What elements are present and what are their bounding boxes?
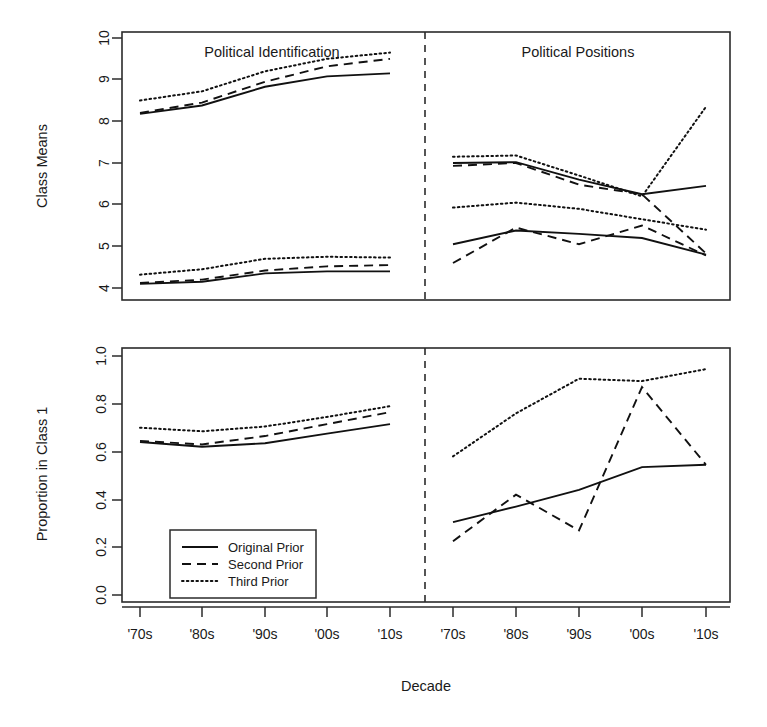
ytick-label-0-4: 0.4 (93, 490, 109, 510)
xtick-label-0-0: '70s (127, 626, 152, 642)
ytick-label-0-2: 0.2 (93, 537, 109, 557)
ytick-label-0-6: 0.6 (93, 442, 109, 462)
xtick-label-1-3: '00s (629, 626, 654, 642)
bottom-panel-ylabel: Proportion in Class 1 (34, 407, 50, 542)
series-third-prior (453, 369, 706, 456)
legend: Original Prior Second Prior Third Prior (170, 530, 316, 598)
xtick-label-1-1: '80s (503, 626, 528, 642)
ytick-label-6: 6 (96, 200, 112, 208)
series-third-prior-high (453, 107, 706, 197)
chart-svg: 10 9 8 7 6 5 4 Class Means Political Ide… (0, 0, 767, 727)
bottom-panel: 1.0 0.8 0.6 0.4 0.2 0.0 Proportion in Cl… (34, 346, 730, 605)
series-third-prior-low (453, 203, 706, 230)
ytick-label-0-0: 0.0 (93, 585, 109, 605)
xtick-label-0-2: '90s (252, 626, 277, 642)
top-panel: 10 9 8 7 6 5 4 Class Means Political Ide… (34, 30, 730, 300)
x-axis: '70s'80s'90s'00s'10s'70s'80s'90s'00s'10s… (122, 607, 730, 694)
ytick-label-1-0: 1.0 (93, 346, 109, 366)
top-panel-y-axis: 10 9 8 7 6 5 4 (96, 30, 122, 292)
x-axis-label: Decade (401, 678, 451, 694)
ytick-label-4: 4 (96, 284, 112, 292)
series-original-prior-high (140, 73, 390, 113)
xtick-label-1-0: '70s (440, 626, 465, 642)
top-panel-frame (122, 32, 730, 300)
panel-title-political-positions: Political Positions (522, 44, 635, 60)
legend-label-third-prior: Third Prior (228, 574, 289, 589)
bottom-panel-y-axis: 1.0 0.8 0.6 0.4 0.2 0.0 (93, 346, 122, 605)
legend-label-original-prior: Original Prior (228, 540, 305, 555)
ytick-label-5: 5 (96, 242, 112, 250)
top-panel-series-group (140, 53, 706, 284)
ytick-label-8: 8 (96, 117, 112, 125)
xtick-label-1-4: '10s (693, 626, 718, 642)
figure-container: 10 9 8 7 6 5 4 Class Means Political Ide… (0, 0, 767, 727)
xtick-label-0-1: '80s (189, 626, 214, 642)
bottom-panel-series-group (140, 369, 706, 541)
ytick-label-0-8: 0.8 (93, 394, 109, 414)
panel-title-political-identification: Political Identification (204, 44, 339, 60)
series-original-prior-low (453, 231, 706, 255)
ytick-label-10: 10 (96, 30, 112, 46)
series-original-prior-high (453, 162, 706, 194)
ytick-label-7: 7 (96, 159, 112, 167)
xtick-label-1-2: '90s (566, 626, 591, 642)
top-panel-ylabel: Class Means (34, 124, 50, 208)
ytick-label-9: 9 (96, 75, 112, 83)
x-axis-ticks: '70s'80s'90s'00s'10s'70s'80s'90s'00s'10s (127, 607, 718, 642)
xtick-label-0-3: '00s (314, 626, 339, 642)
xtick-label-0-4: '10s (377, 626, 402, 642)
series-second-prior (453, 387, 706, 541)
series-second-prior (140, 412, 390, 444)
series-original-prior-low (140, 271, 390, 284)
legend-label-second-prior: Second Prior (228, 557, 304, 572)
